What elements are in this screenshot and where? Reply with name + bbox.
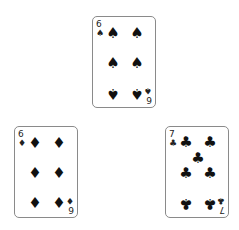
diamond-icon: ♦ <box>66 196 74 205</box>
corner-index-bottom: 6 ♠ <box>144 86 152 104</box>
club-icon: ♣ <box>179 166 192 181</box>
club-icon: ♣ <box>179 135 192 150</box>
corner-index-top: 7 ♣ <box>169 130 177 148</box>
diamond-icon: ♦ <box>18 139 26 148</box>
rank-label: 6 <box>146 95 152 105</box>
club-icon: ♣ <box>217 196 225 205</box>
card-6-spades[interactable]: 6 ♠ ♠ ♠ ♠ ♠ ♠ ♠ 6 ♠ <box>92 16 156 108</box>
diamond-icon: ♦ <box>52 136 65 151</box>
card-6-diamonds[interactable]: 6 ♦ ♦ ♦ ♦ ♦ ♦ ♦ 6 ♦ <box>14 126 78 218</box>
spade-icon: ♠ <box>106 56 119 71</box>
card-7-clubs[interactable]: 7 ♣ ♣ ♣ ♣ ♣ ♣ ♣ ♣ 7 ♣ <box>165 126 229 218</box>
club-icon: ♣ <box>203 196 216 211</box>
diamond-icon: ♦ <box>28 166 41 181</box>
spade-icon: ♠ <box>106 26 119 41</box>
club-icon: ♣ <box>203 135 216 150</box>
diamond-icon: ♦ <box>52 196 65 211</box>
club-icon: ♣ <box>179 196 192 211</box>
corner-index-bottom: 6 ♦ <box>66 196 74 214</box>
spade-icon: ♠ <box>130 56 143 71</box>
spade-icon: ♠ <box>130 26 143 41</box>
rank-label: 7 <box>219 205 225 215</box>
corner-index-bottom: 7 ♣ <box>217 196 225 214</box>
spade-icon: ♠ <box>130 86 143 101</box>
spade-icon: ♠ <box>106 86 119 101</box>
club-icon: ♣ <box>169 139 177 148</box>
diamond-icon: ♦ <box>28 136 41 151</box>
corner-index-top: 6 ♦ <box>18 130 26 148</box>
rank-label: 6 <box>68 205 74 215</box>
club-icon: ♣ <box>203 166 216 181</box>
spade-icon: ♠ <box>96 29 104 38</box>
corner-index-top: 6 ♠ <box>96 20 104 38</box>
diamond-icon: ♦ <box>52 166 65 181</box>
spade-icon: ♠ <box>144 86 152 95</box>
diamond-icon: ♦ <box>28 196 41 211</box>
